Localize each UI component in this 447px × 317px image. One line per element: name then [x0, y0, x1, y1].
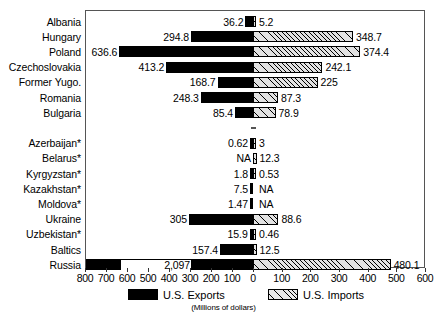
value-label-export: 636.6	[49, 47, 117, 58]
category-label: Czechoslovakia	[9, 61, 81, 73]
chart-legend: U.S. Exports U.S. Imports	[0, 288, 447, 302]
category-label: Ukraine	[46, 213, 81, 225]
bar-export	[250, 198, 253, 209]
category-label: Romania	[40, 92, 81, 104]
category-label: Albania	[47, 16, 81, 28]
bar-export	[119, 46, 253, 57]
exports-swatch-icon	[128, 289, 158, 300]
bidirectional-bar-chart: AlbaniaHungaryPolandCzechoslovakiaFormer…	[0, 0, 447, 317]
value-label-import: 374.4	[363, 47, 389, 58]
axis-tick-label: 200	[295, 272, 325, 284]
value-label-export: 36.2	[175, 17, 243, 28]
bar-import	[253, 168, 256, 179]
value-label-import: 348.7	[356, 32, 382, 43]
axis-tick-label: 100	[267, 272, 297, 284]
axis-tick-label: 300	[324, 272, 354, 284]
bar-export	[235, 107, 253, 118]
value-label-import: NA	[259, 184, 273, 195]
category-label: Azerbaijan*	[28, 137, 81, 149]
bar-export	[189, 214, 253, 225]
value-label-export: 157.4	[150, 245, 218, 256]
value-label-import: 3	[259, 138, 265, 149]
value-label-export: 85.4	[165, 108, 233, 119]
legend-item-imports: U.S. Imports	[268, 288, 364, 301]
axis-tick-label: 400	[353, 272, 383, 284]
value-label-import: 242.1	[325, 62, 351, 73]
bar-import	[253, 31, 353, 42]
legend-label-imports: U.S. Imports	[303, 289, 364, 301]
value-label-export: 168.7	[148, 77, 216, 88]
value-label-import: 78.9	[279, 108, 299, 119]
bar-export	[191, 31, 253, 42]
bar-import	[253, 138, 256, 149]
value-label-export: 1.47	[180, 199, 248, 210]
category-label: Uzbekistan*	[26, 228, 81, 240]
legend-label-exports: U.S. Exports	[163, 289, 225, 301]
category-label: Bulgaria	[43, 107, 81, 119]
bar-import	[253, 107, 276, 118]
value-label-import: 0.53	[259, 169, 279, 180]
bar-export	[166, 62, 253, 73]
bar-import	[253, 77, 318, 88]
category-label: Belarus*	[42, 152, 81, 164]
category-label: Moldova*	[38, 198, 81, 210]
bar-import	[253, 229, 256, 240]
bar-import	[253, 16, 256, 27]
bar-export	[201, 92, 253, 103]
bar-import	[253, 244, 257, 255]
bar-import	[253, 62, 322, 73]
value-label-export: 1.8	[180, 169, 248, 180]
units-subtitle: (Millions of dollars)	[0, 303, 447, 313]
axis-tick-label: 500	[381, 272, 411, 284]
value-label-export: 413.2	[96, 62, 164, 73]
value-label-import: 88.6	[281, 214, 301, 225]
bar-export	[250, 183, 253, 194]
bar-import	[253, 214, 278, 225]
category-label: Former Yugo.	[19, 76, 81, 88]
category-label: Hungary	[42, 31, 81, 43]
value-label-import: 5.2	[259, 17, 273, 28]
bar-export	[220, 244, 253, 255]
axis-tick-label: 0	[238, 272, 268, 284]
bar-import	[253, 153, 257, 164]
bar-export	[218, 77, 253, 88]
value-label-export: NA	[183, 153, 251, 164]
bar-export	[245, 16, 253, 27]
value-label-export: 305	[119, 214, 187, 225]
value-label-export: 248.3	[131, 93, 199, 104]
value-label-import: 0.46	[259, 229, 279, 240]
category-label: Russia	[50, 259, 82, 271]
axis-tick-label: 600	[410, 272, 440, 284]
axis-gap-tick	[251, 127, 256, 129]
value-label-import: NA	[259, 199, 273, 210]
bar-import	[253, 46, 360, 57]
value-label-import: 12.5	[260, 245, 280, 256]
legend-item-exports: U.S. Exports	[128, 288, 225, 301]
imports-swatch-icon	[268, 289, 298, 300]
value-label-import: 12.3	[260, 153, 280, 164]
category-label: Kazakhstan*	[23, 183, 81, 195]
bar-import	[253, 92, 278, 103]
category-label: Kyrgyzstan*	[26, 168, 81, 180]
value-label-export: 294.8	[121, 32, 189, 43]
value-label-import: 87.3	[281, 93, 301, 104]
value-label-import: 225	[321, 77, 338, 88]
value-label-export: 15.9	[180, 229, 248, 240]
value-label-export: 7.5	[180, 184, 248, 195]
category-label: Baltics	[51, 244, 81, 256]
value-label-export: 0.62	[180, 138, 248, 149]
